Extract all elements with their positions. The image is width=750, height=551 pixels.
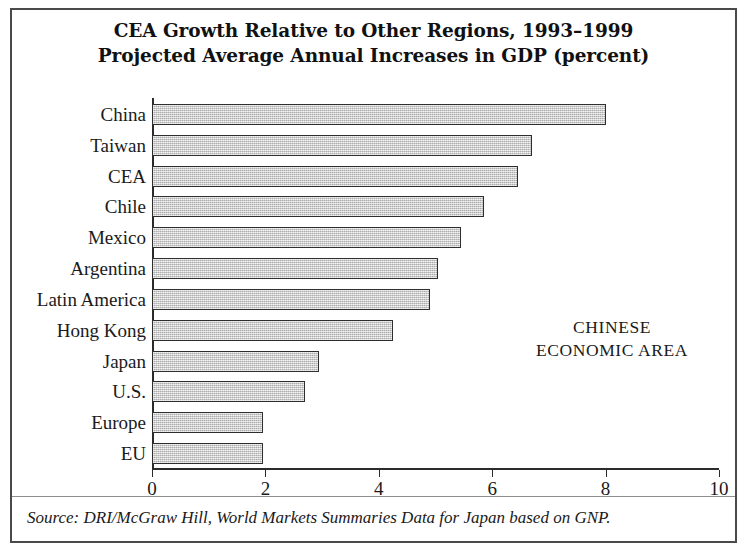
source-note: Source: DRI/McGraw Hill, World Markets S… xyxy=(27,508,610,528)
category-label: Chile xyxy=(10,196,146,217)
chart-title-line-1: CEA Growth Relative to Other Regions, 19… xyxy=(10,18,737,43)
x-axis-tick xyxy=(152,470,153,477)
category-label: Hong Kong xyxy=(10,320,146,341)
bar-mexico xyxy=(152,227,461,248)
bar-europe xyxy=(152,412,263,433)
bar-argentina xyxy=(152,258,438,279)
category-label: Latin America xyxy=(10,289,146,310)
category-label: Japan xyxy=(10,351,146,372)
bar-latin-america xyxy=(152,289,430,310)
chart-annotation: CHINESE ECONOMIC AREA xyxy=(500,316,724,362)
category-label: EU xyxy=(10,443,146,464)
plot-area: 0246810 xyxy=(152,98,719,468)
bar-eu xyxy=(152,443,263,464)
bar-japan xyxy=(152,351,319,372)
category-label: U.S. xyxy=(10,381,146,402)
chart-title-line-2: Projected Average Annual Increases in GD… xyxy=(10,43,737,68)
x-axis-line xyxy=(152,468,719,470)
x-axis-tick xyxy=(379,470,380,477)
x-axis-tick xyxy=(719,470,720,477)
bar-cea xyxy=(152,166,518,187)
x-axis-tick xyxy=(606,470,607,477)
x-axis-tick xyxy=(492,470,493,477)
category-label: China xyxy=(10,104,146,125)
chart-figure: CEA Growth Relative to Other Regions, 19… xyxy=(0,0,750,551)
annotation-line-1: CHINESE xyxy=(500,316,724,339)
x-axis-tick xyxy=(265,470,266,477)
category-label: Taiwan xyxy=(10,135,146,156)
bar-china xyxy=(152,104,606,125)
chart-title: CEA Growth Relative to Other Regions, 19… xyxy=(10,18,737,68)
bar-chile xyxy=(152,196,484,217)
annotation-line-2: ECONOMIC AREA xyxy=(500,339,724,362)
category-label: Europe xyxy=(10,412,146,433)
y-axis-category-labels: ChinaTaiwanCEAChileMexicoArgentinaLatin … xyxy=(8,98,146,468)
bar-hong-kong xyxy=(152,320,393,341)
footer-divider xyxy=(12,496,735,497)
bar-u-s xyxy=(152,381,305,402)
category-label: CEA xyxy=(10,166,146,187)
category-label: Mexico xyxy=(10,227,146,248)
category-label: Argentina xyxy=(10,258,146,279)
bar-taiwan xyxy=(152,135,532,156)
